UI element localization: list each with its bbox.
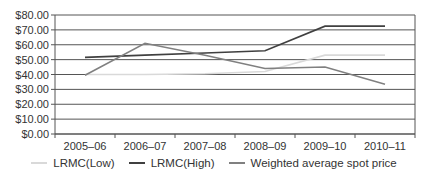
legend-item-spot-price: Weighted average spot price (229, 157, 397, 169)
legend: LRMC(Low) LRMC(High) Weighted average sp… (0, 152, 428, 174)
y-tick-label: $80.00 (15, 9, 49, 21)
x-tick-label: 2009–10 (304, 140, 347, 152)
y-tick-label: $20.00 (15, 98, 49, 110)
y-tick-label: $30.00 (15, 83, 49, 95)
legend-swatch-lrmc-high (129, 162, 145, 164)
line-chart: $0.00$10.00$20.00$30.00$40.00$50.00$60.0… (0, 0, 428, 152)
y-tick-label: $10.00 (15, 113, 49, 125)
x-tick-label: 2008–09 (244, 140, 287, 152)
legend-item-lrmc-low: LRMC(Low) (31, 157, 114, 169)
legend-label-spot-price: Weighted average spot price (251, 157, 397, 169)
series-line-lrmc-high (85, 26, 385, 57)
y-tick-label: $60.00 (15, 39, 49, 51)
legend-label-lrmc-high: LRMC(High) (151, 157, 215, 169)
y-tick-label: $0.00 (21, 128, 49, 140)
x-axis-ticks: 2005–062006–072007–082008–092009–102010–… (55, 134, 415, 152)
y-tick-label: $70.00 (15, 24, 49, 36)
legend-swatch-lrmc-low (31, 162, 47, 164)
x-tick-label: 2005–06 (64, 140, 107, 152)
x-tick-label: 2006–07 (124, 140, 167, 152)
y-tick-label: $40.00 (15, 69, 49, 81)
legend-item-lrmc-high: LRMC(High) (129, 157, 215, 169)
legend-swatch-spot-price (229, 162, 245, 164)
y-tick-label: $50.00 (15, 54, 49, 66)
legend-label-lrmc-low: LRMC(Low) (53, 157, 114, 169)
x-tick-label: 2010–11 (364, 140, 406, 152)
series-line-weighted-average-spot-price (85, 43, 385, 84)
series-lines (85, 26, 385, 84)
x-tick-label: 2007–08 (184, 140, 227, 152)
y-axis-ticks: $0.00$10.00$20.00$30.00$40.00$50.00$60.0… (15, 9, 55, 140)
